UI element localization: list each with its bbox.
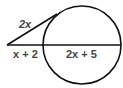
diagram-canvas: 2x x + 2 2x + 5: [0, 0, 123, 88]
internal-secant-label: 2x + 5: [66, 48, 97, 60]
tangent-label: 2x: [18, 18, 32, 30]
tangent-segment: [7, 14, 57, 45]
external-secant-label: x + 2: [13, 48, 38, 60]
